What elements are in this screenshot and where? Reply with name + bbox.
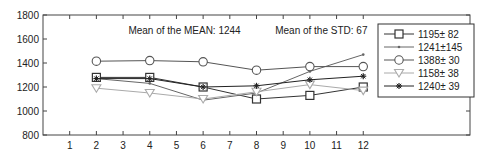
x-tick-label: 7 bbox=[227, 140, 233, 151]
x-tick-label: 1 bbox=[67, 140, 73, 151]
x-tick-label: 3 bbox=[120, 140, 126, 151]
y-tick-label: 1200 bbox=[17, 82, 40, 93]
circle-marker bbox=[395, 56, 403, 64]
legend-label: 1158± 38 bbox=[418, 68, 459, 79]
legend-label: 1388± 30 bbox=[418, 55, 460, 66]
y-tick-label: 1600 bbox=[17, 34, 40, 45]
point-marker bbox=[398, 46, 401, 49]
x-tick-label: 10 bbox=[304, 140, 316, 151]
x-tick-label: 5 bbox=[174, 140, 180, 151]
legend-label: 1195± 82 bbox=[418, 29, 459, 40]
y-tick-label: 1400 bbox=[17, 58, 40, 69]
data-series bbox=[92, 53, 368, 103]
square-marker bbox=[306, 91, 314, 99]
circle-marker bbox=[92, 57, 100, 65]
legend-label: 1241±145 bbox=[418, 42, 463, 53]
circle-marker bbox=[359, 62, 367, 70]
x-tick-label: 11 bbox=[331, 140, 342, 151]
annotation-text: Mean of the MEAN: 1244 bbox=[128, 25, 241, 36]
point-marker bbox=[148, 82, 151, 85]
square-marker bbox=[395, 30, 403, 38]
circle-marker bbox=[199, 58, 207, 66]
x-tick-label: 9 bbox=[280, 140, 286, 151]
circle-marker bbox=[252, 66, 260, 74]
series-line bbox=[96, 61, 363, 71]
point-marker bbox=[362, 53, 365, 56]
legend-label: 1240± 39 bbox=[418, 81, 460, 92]
y-tick-label: 1000 bbox=[17, 106, 40, 117]
series-4 bbox=[92, 81, 368, 103]
x-tick-label: 8 bbox=[254, 140, 260, 151]
x-tick-label: 4 bbox=[147, 140, 153, 151]
y-tick-label: 1800 bbox=[17, 10, 40, 21]
line-chart: 80010001200140016001800 123456789101112 … bbox=[0, 0, 488, 157]
x-tick-label: 6 bbox=[200, 140, 206, 151]
x-tick-label: 2 bbox=[94, 140, 100, 151]
annotation-text: Mean of the STD: 67 bbox=[275, 25, 368, 36]
series-3 bbox=[92, 56, 367, 74]
x-tick-label: 12 bbox=[358, 140, 370, 151]
legend-item: 1195± 82 bbox=[384, 29, 459, 40]
series-1 bbox=[92, 73, 367, 103]
chart-annotations: Mean of the MEAN: 1244Mean of the STD: 6… bbox=[128, 25, 367, 36]
circle-marker bbox=[306, 62, 314, 70]
circle-marker bbox=[146, 56, 154, 64]
legend: 1195± 821241±1451388± 301158± 381240± 39 bbox=[378, 24, 474, 97]
y-tick-label: 800 bbox=[22, 130, 39, 141]
